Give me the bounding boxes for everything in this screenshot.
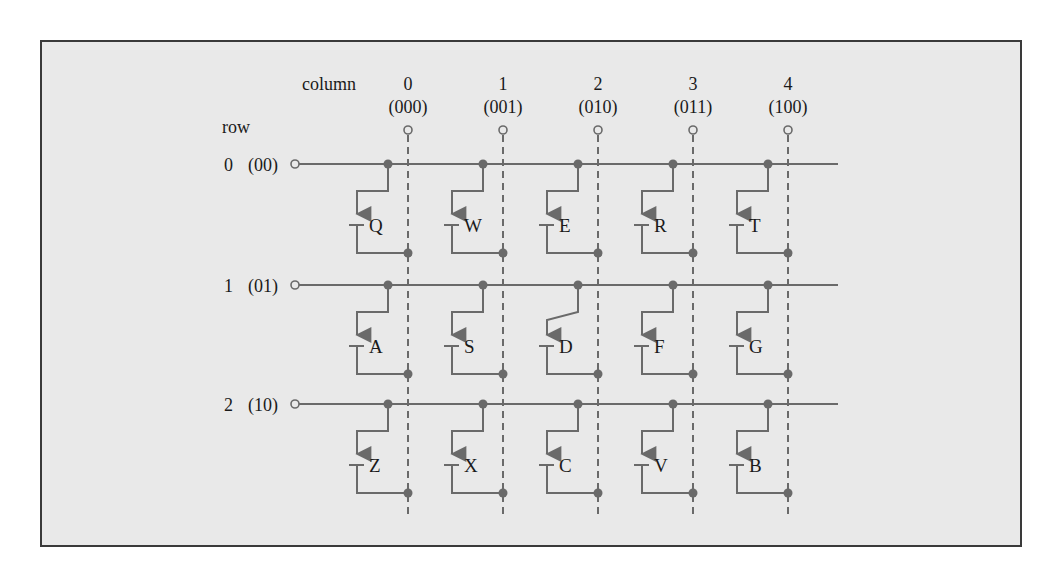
column-junction-dot (404, 370, 413, 379)
switch-matrix-diagram: column row 0 (000) 1 (001) 2 (010) 3 (01… (0, 0, 1049, 576)
key-label-v: V (654, 455, 668, 476)
column-junction-dot (499, 249, 508, 258)
row-index-2: 2 (224, 395, 233, 415)
column-code: (100) (769, 97, 808, 118)
column-code: (001) (484, 97, 523, 118)
column-terminal-0 (404, 126, 412, 134)
column-code: (000) (389, 97, 428, 118)
diagram-panel (41, 41, 1021, 546)
row-index-1: 1 (224, 276, 233, 296)
column-junction-dot (594, 489, 603, 498)
key-label-t: T (749, 215, 761, 236)
row-terminal-1 (291, 281, 299, 289)
column-index: 3 (689, 74, 698, 94)
key-label-b: B (749, 455, 762, 476)
key-label-f: F (654, 336, 665, 357)
column-code: (011) (674, 97, 712, 118)
column-junction-dot (404, 489, 413, 498)
row-index-0: 0 (224, 155, 233, 175)
column-index: 4 (784, 74, 793, 94)
column-junction-dot (499, 489, 508, 498)
column-junction-dot (689, 489, 698, 498)
key-label-w: W (464, 215, 482, 236)
key-label-e: E (559, 215, 571, 236)
column-terminal-4 (784, 126, 792, 134)
column-index: 1 (499, 74, 508, 94)
row-code-0: (00) (248, 155, 278, 176)
column-index: 2 (594, 74, 603, 94)
key-label-s: S (464, 336, 475, 357)
row-header-label: row (222, 117, 250, 137)
column-terminal-1 (499, 126, 507, 134)
column-code: (010) (579, 97, 618, 118)
column-junction-dot (784, 489, 793, 498)
column-terminal-3 (689, 126, 697, 134)
column-junction-dot (594, 249, 603, 258)
key-label-g: G (749, 336, 763, 357)
column-junction-dot (499, 370, 508, 379)
column-junction-dot (784, 370, 793, 379)
key-label-d: D (559, 336, 573, 357)
key-label-a: A (369, 336, 383, 357)
key-label-c: C (559, 455, 572, 476)
key-label-x: X (464, 455, 478, 476)
column-junction-dot (404, 249, 413, 258)
keyboard-switch-matrix-figure: column row 0 (000) 1 (001) 2 (010) 3 (01… (0, 0, 1049, 576)
row-code-1: (01) (248, 276, 278, 297)
column-index: 0 (404, 74, 413, 94)
column-junction-dot (689, 249, 698, 258)
column-junction-dot (784, 249, 793, 258)
row-code-2: (10) (248, 395, 278, 416)
column-junction-dot (594, 370, 603, 379)
key-label-r: R (654, 215, 667, 236)
column-terminal-2 (594, 126, 602, 134)
row-terminal-0 (291, 160, 299, 168)
key-label-z: Z (369, 455, 381, 476)
column-header-label: column (302, 74, 356, 94)
row-terminal-2 (291, 400, 299, 408)
column-junction-dot (689, 370, 698, 379)
key-label-q: Q (369, 215, 383, 236)
